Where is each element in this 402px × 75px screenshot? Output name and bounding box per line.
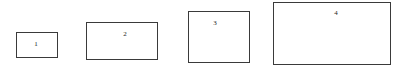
rectangle-label-2: 2: [123, 31, 127, 38]
rectangle-label-1: 1: [34, 41, 38, 48]
rectangle-label-3: 3: [213, 20, 217, 27]
rectangle-3: [188, 11, 250, 63]
rectangle-4: [273, 2, 391, 65]
diagram-canvas: 1234: [0, 0, 402, 75]
rectangle-label-4: 4: [334, 10, 338, 17]
rectangle-2: [86, 22, 158, 60]
